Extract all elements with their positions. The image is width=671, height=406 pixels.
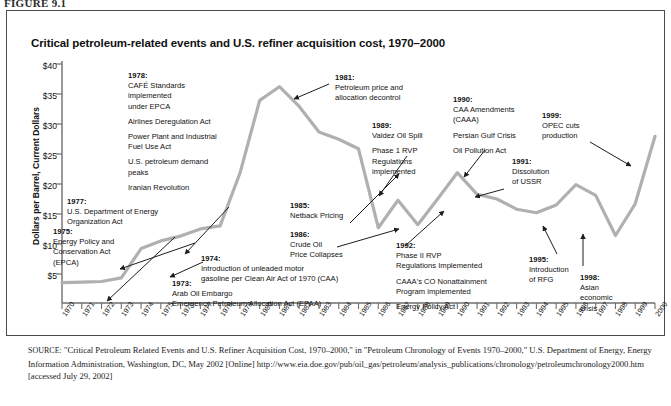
annotation-line: implemented <box>372 167 467 177</box>
annotation-block: Power Plant and IndustrialFuel Use Act <box>128 132 258 152</box>
annotation-block: Asianeconomiccrisis <box>580 283 640 314</box>
annotation-year: 1985: <box>290 201 309 210</box>
annotation-line: Energy Policy Act <box>396 302 546 312</box>
annotation-block: Airlines Deregulation Act <box>128 117 258 127</box>
annotation-year: 1978: <box>128 71 147 80</box>
annotation-block: U.S. petroleum demandpeaks <box>128 157 258 177</box>
annotation-year: 1999: <box>542 111 561 120</box>
annotation-year: 1989: <box>372 121 391 130</box>
annotation-line: allocation decontrol <box>335 93 445 103</box>
annotation-line: Program implemented <box>396 287 546 297</box>
annotation-line: CAAA's CO Nonattainment <box>396 277 546 287</box>
annotation-1978: 1978:CAFÉ Standardsimplementedunder EPCA… <box>128 71 258 193</box>
annotation-line: Power Plant and Industrial <box>128 132 258 142</box>
annotation-line: of USSR <box>512 177 602 187</box>
annotation-year: 1981: <box>335 73 354 82</box>
source-note-text: "Critical Petroleum Related Events and U… <box>28 345 652 381</box>
annotation-block: U.S. Department of EnergyOrganization Ac… <box>67 207 202 227</box>
annotation-year: 1977: <box>67 197 86 206</box>
annotation-line: implemented <box>128 91 258 101</box>
annotation-block: Oil Pollution Act <box>453 146 563 156</box>
annotation-block: Energy Policy Act <box>396 302 546 312</box>
annotation-block: OPEC cutsproduction <box>542 121 627 141</box>
annotation-line: economic <box>580 293 640 303</box>
x-tick-2000: 2000 <box>653 300 670 318</box>
annotation-line: Petroleum price and <box>335 83 445 93</box>
annotation-line: peaks <box>128 168 258 178</box>
annotation-block: Iranian Revolution <box>128 183 258 193</box>
x-tick-1970: 1970 <box>60 300 77 318</box>
annotation-line: Introduction of unleaded motor <box>201 264 411 274</box>
annotation-block: Petroleum price andallocation decontrol <box>335 83 445 103</box>
annotation-year: 1995: <box>529 255 548 264</box>
annotation-year: 1992: <box>396 241 415 250</box>
annotation-block: CAFÉ Standardsimplementedunder EPCA <box>128 81 258 112</box>
annotation-line: U.S. Department of Energy <box>67 207 202 217</box>
annotation-line: Netback Pricing <box>290 211 395 221</box>
annotation-1985: 1985:Netback Pricing <box>290 201 395 221</box>
annotation-line: Regulations <box>372 157 467 167</box>
annotation-block: CAAA's CO NonattainmentProgram implement… <box>396 277 546 297</box>
annotation-line: Energy Policy and <box>53 237 173 247</box>
annotation-1991: 1991:Dissolutionof USSR <box>512 157 602 188</box>
annotation-year: 1974: <box>201 254 220 263</box>
x-tick-1972: 1972 <box>100 300 117 318</box>
annotation-line: Airlines Deregulation Act <box>128 117 258 127</box>
annotation-line: CAFÉ Standards <box>128 81 258 91</box>
annotation-block: Energy Policy andConservation Act(EPCA) <box>53 237 173 268</box>
chart-frame: Critical petroleum-related events and U.… <box>6 10 665 336</box>
annotation-1973: 1973:Arab Oil EmbargoEmergency Petroleum… <box>172 279 387 310</box>
annotation-line: Fuel Use Act <box>128 142 258 152</box>
annotation-1986: 1986:Crude OilPrice Collapses <box>290 230 385 261</box>
annotation-1999: 1999:OPEC cutsproduction <box>542 111 627 142</box>
annotation-line: Regulations Implemented <box>396 261 546 271</box>
annotation-line: Price Collapses <box>290 250 385 260</box>
annotation-line: OPEC cuts <box>542 121 627 131</box>
annotation-block: Netback Pricing <box>290 211 395 221</box>
annotation-line: Oil Pollution Act <box>453 146 563 156</box>
x-tick-1971: 1971 <box>80 300 97 318</box>
x-tick-1995: 1995 <box>554 300 571 318</box>
annotation-line: U.S. petroleum demand <box>128 157 258 167</box>
source-note-prefix: SOURCE: <box>28 346 62 355</box>
annotation-year: 1975: <box>53 227 72 236</box>
annotation-block: Arab Oil EmbargoEmergency Petroleum Allo… <box>172 289 387 309</box>
annotation-line: Iranian Revolution <box>128 183 258 193</box>
annotation-1977: 1977:U.S. Department of EnergyOrganizati… <box>67 197 202 228</box>
annotation-line: production <box>542 131 627 141</box>
annotation-1998: 1998:Asianeconomiccrisis <box>580 273 640 314</box>
annotation-line: crisis <box>580 304 640 314</box>
annotation-line: Emergency Petroleum Allocation Act (EPAA… <box>172 299 387 309</box>
annotation-block: Crude OilPrice Collapses <box>290 240 385 260</box>
figure-label: FIGURE 9.1 <box>4 0 66 9</box>
annotation-line: under EPCA <box>128 102 258 112</box>
annotation-line: Asian <box>580 283 640 293</box>
annotation-year: 1998: <box>580 273 599 282</box>
source-note: SOURCE: "Critical Petroleum Related Even… <box>28 344 656 383</box>
annotation-line: Crude Oil <box>290 240 385 250</box>
x-tick-1974: 1974 <box>139 300 156 318</box>
annotation-year: 1990: <box>453 95 472 104</box>
annotation-1992: 1992:Phase II RVPRegulations Implemented… <box>396 241 546 312</box>
x-tick-1973: 1973 <box>119 300 136 318</box>
annotation-1975: 1975:Energy Policy andConservation Act(E… <box>53 227 173 268</box>
annotation-block: Phase II RVPRegulations Implemented <box>396 251 546 271</box>
annotation-line: Dissolution <box>512 167 602 177</box>
annotation-line: (EPCA) <box>53 258 173 268</box>
annotation-year: 1991: <box>512 157 531 166</box>
annotation-1981: 1981:Petroleum price andallocation decon… <box>335 73 445 104</box>
annotation-year: 1986: <box>290 230 309 239</box>
annotation-line: Conservation Act <box>53 247 173 257</box>
annotation-line: Arab Oil Embargo <box>172 289 387 299</box>
annotation-year: 1973: <box>172 279 191 288</box>
annotation-block: Dissolutionof USSR <box>512 167 602 187</box>
figure-page: FIGURE 9.1 Critical petroleum-related ev… <box>0 0 671 406</box>
annotation-line: Phase II RVP <box>396 251 546 261</box>
